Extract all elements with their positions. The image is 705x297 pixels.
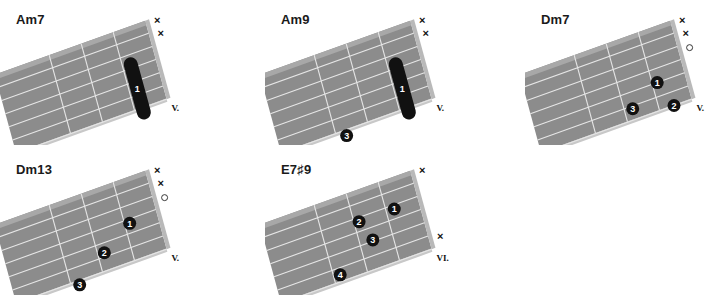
finger-number: 2 (102, 248, 107, 258)
finger-number: 3 (370, 235, 375, 245)
chord-diagram-dm13: Dm13 ××V.123 (0, 150, 180, 295)
fretboard: ××VI.2134 (265, 150, 455, 295)
muted-string-icon: × (683, 27, 689, 39)
chord-diagram-e7sharp9: E7♯9 ××VI.2134 (265, 150, 445, 295)
fret-position-label: V. (436, 103, 444, 113)
fretboard-body (0, 171, 166, 295)
finger-number: 1 (400, 84, 405, 94)
finger-number: 2 (357, 217, 362, 227)
chord-diagram-dm7: Dm7 ××V.132 (525, 0, 705, 145)
muted-string-icon: × (154, 164, 160, 176)
open-string-icon (687, 45, 693, 51)
open-string-icon (162, 195, 168, 201)
fretboard: ××V.1 (0, 0, 180, 145)
chord-diagram-am9: Am9 ××V.13 (265, 0, 445, 145)
finger-number: 3 (77, 280, 82, 290)
muted-string-icon: × (158, 177, 164, 189)
muted-string-icon: × (679, 14, 685, 26)
fretboard-body (525, 21, 691, 145)
finger-number: 1 (655, 78, 660, 88)
muted-string-icon: × (154, 14, 160, 26)
muted-string-icon: × (423, 27, 429, 39)
chord-diagram-am7: Am7 ××V.1 (0, 0, 180, 145)
fret-position-label: V. (171, 103, 179, 113)
fretboard: ××V.123 (0, 150, 180, 295)
muted-string-icon: × (419, 14, 425, 26)
finger-number: 3 (344, 131, 349, 141)
fretboard: ××V.132 (525, 0, 705, 145)
muted-string-icon: × (158, 27, 164, 39)
finger-number: 3 (630, 104, 635, 114)
fret-position-label: VI. (436, 253, 448, 263)
finger-number: 1 (135, 84, 140, 94)
muted-string-icon: × (437, 230, 443, 242)
fretboard-body (265, 171, 431, 295)
finger-number: 2 (671, 101, 676, 111)
fretboard: ××V.13 (265, 0, 445, 145)
muted-string-icon: × (419, 164, 425, 176)
fret-position-label: V. (696, 103, 704, 113)
fret-position-label: V. (171, 253, 179, 263)
finger-number: 1 (392, 204, 397, 214)
finger-number: 4 (338, 270, 343, 280)
finger-number: 1 (127, 219, 132, 229)
